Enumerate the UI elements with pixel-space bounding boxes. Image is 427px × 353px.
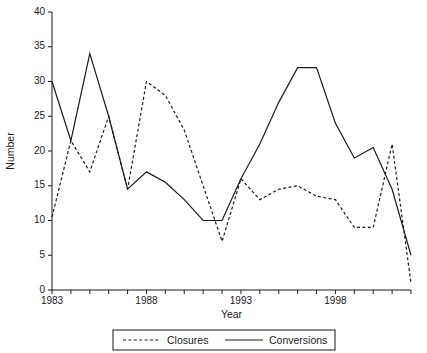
series-conversions (52, 54, 411, 256)
chart-legend: ClosuresConversions (113, 330, 335, 350)
y-tick-label: 20 (34, 145, 46, 156)
y-axis-ticks: 0510152025303540 (34, 6, 52, 295)
y-tick-label: 30 (34, 75, 46, 86)
legend-label-conversions: Conversions (269, 334, 327, 346)
series-lines (52, 54, 411, 283)
y-axis-title: Number (4, 132, 16, 170)
y-tick-label: 40 (34, 6, 46, 17)
x-tick-label: 1998 (324, 295, 347, 306)
legend-label-closures: Closures (167, 334, 208, 346)
x-tick-label: 1993 (230, 295, 253, 306)
y-tick-label: 15 (34, 179, 46, 190)
chart-container: 0510152025303540 1983198819931998 Number… (0, 0, 427, 353)
y-tick-label: 5 (39, 249, 45, 260)
y-tick-label: 25 (34, 110, 46, 121)
x-tick-label: 1988 (135, 295, 158, 306)
x-axis-ticks: 1983198819931998 (41, 290, 411, 306)
y-tick-label: 35 (34, 40, 46, 51)
y-tick-label: 0 (39, 284, 45, 295)
x-tick-label: 1983 (41, 295, 64, 306)
x-axis-title: Year (221, 308, 243, 320)
y-tick-label: 10 (34, 214, 46, 225)
line-chart: 0510152025303540 1983198819931998 Number… (0, 0, 427, 353)
series-closures (52, 82, 411, 284)
